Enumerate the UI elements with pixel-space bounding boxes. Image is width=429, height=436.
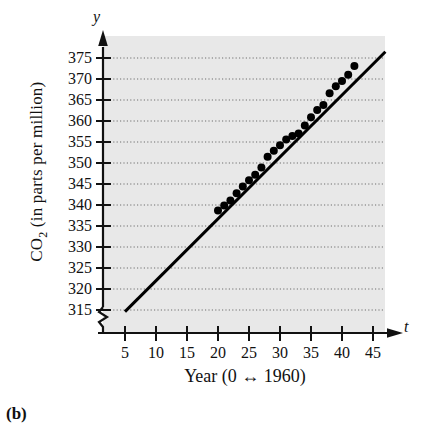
co2-scatter-plot-figure: 375 370 365 360 355 350 345 340 335 330 … [0, 0, 429, 436]
t-axis-variable-label: t [404, 318, 408, 336]
x-axis-title: Year (0 ↔ 1960) [103, 366, 387, 387]
y-axis-title-subscript: 2 [36, 232, 50, 238]
figure-caption: (b) [6, 404, 27, 424]
y-axis-title-suffix: (in parts per million) [27, 82, 46, 232]
y-axis-title: CO2 (in parts per million) [27, 47, 50, 297]
y-axis-title-prefix: CO [27, 238, 46, 262]
y-axis-variable-label: y [93, 8, 100, 26]
